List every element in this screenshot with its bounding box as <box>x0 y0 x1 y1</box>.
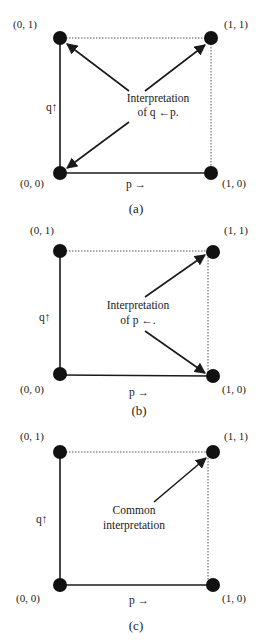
arrow-to-1-0 <box>145 331 205 373</box>
arrow-to-1-1 <box>145 255 205 297</box>
node-1-1 <box>204 31 218 45</box>
node-1-0 <box>206 578 220 592</box>
node-1-1 <box>206 245 220 259</box>
corner-label-br: (1, 0) <box>222 383 246 396</box>
panel-c: (0, 1) (1, 1) (0, 0) (1, 0) p → q↑ Commo… <box>16 430 248 633</box>
corner-label-tl: (0, 1) <box>13 18 37 31</box>
node-0-0 <box>53 166 67 180</box>
node-0-1 <box>53 31 67 45</box>
corner-label-tl: (0, 1) <box>20 430 44 443</box>
arrow-to-1-1 <box>145 45 205 91</box>
node-0-0 <box>53 578 67 592</box>
annotation-line-1: Common <box>113 504 156 516</box>
q-axis-label: q↑ <box>46 101 58 114</box>
q-axis-label: q↑ <box>36 513 48 526</box>
corner-label-tr: (1, 1) <box>224 430 248 443</box>
corner-label-tr: (1, 1) <box>224 224 248 237</box>
annotation-line-1: Interpretation <box>107 299 170 312</box>
annotation-line-2: interpretation <box>103 519 165 532</box>
node-0-1 <box>53 244 67 258</box>
corner-label-br: (1, 0) <box>222 592 246 605</box>
corner-label-tl: (0, 1) <box>30 224 54 237</box>
corner-label-bl: (0, 0) <box>20 177 44 190</box>
annotation-line-1: Interpretation <box>127 92 190 105</box>
p-axis-line <box>60 375 211 376</box>
node-1-1 <box>206 445 220 459</box>
caption-b: (b) <box>131 403 146 418</box>
q-axis-label: q↑ <box>39 311 51 324</box>
corner-label-br: (1, 0) <box>222 177 246 190</box>
arrow-to-0-1 <box>67 44 129 91</box>
p-axis-label: p → <box>126 178 146 191</box>
corner-label-bl: (0, 0) <box>20 383 44 396</box>
panel-b: (0, 1) (1, 1) (0, 0) (1, 0) p → q↑ Inter… <box>20 224 248 418</box>
arrow-to-0-0 <box>67 122 129 168</box>
corner-label-tr: (1, 1) <box>224 18 248 31</box>
node-0-1 <box>53 445 67 459</box>
caption-c: (c) <box>129 618 143 633</box>
node-0-0 <box>53 367 67 381</box>
corner-label-bl: (0, 0) <box>16 592 40 605</box>
annotation-line-2: of p ←. <box>120 314 156 327</box>
annotation-line-2: of q ←p. <box>137 106 178 119</box>
node-1-0 <box>204 166 218 180</box>
diagram-figure: (0, 1) (1, 1) (0, 0) (1, 0) p → q↑ Inter… <box>0 0 262 643</box>
p-axis-label: p → <box>129 594 149 607</box>
node-1-0 <box>206 369 220 383</box>
panel-a: (0, 1) (1, 1) (0, 0) (1, 0) p → q↑ Inter… <box>13 18 248 216</box>
arrow-to-1-1 <box>154 458 206 502</box>
p-axis-label: p → <box>129 386 149 399</box>
caption-a: (a) <box>129 201 143 216</box>
